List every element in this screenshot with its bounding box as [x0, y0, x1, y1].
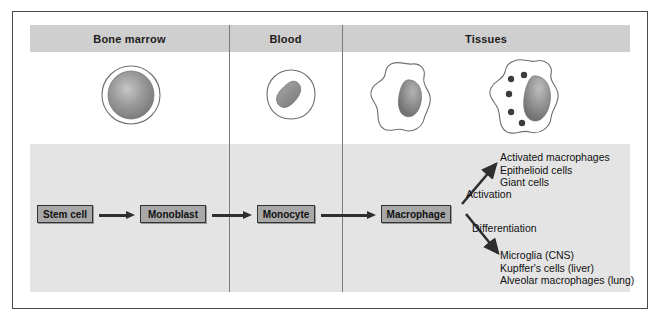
- granule-icon: [508, 76, 514, 82]
- activation-outcome-list: Activated macrophages Epithelioid cells …: [500, 151, 610, 189]
- arrow-head-icon: [243, 211, 252, 219]
- monocyte-illustration: [262, 66, 320, 124]
- column-header-bone-marrow: Bone marrow: [30, 25, 229, 52]
- stem-cell-illustration: [100, 62, 162, 128]
- outcome-item: Giant cells: [500, 176, 610, 189]
- flow-stage-macrophage-label: Macrophage: [387, 209, 446, 220]
- column-header-band: Bone marrow Blood Tissues: [30, 25, 630, 52]
- column-header-blood-label: Blood: [269, 33, 301, 45]
- arrow-monoblast-to-monocyte: [212, 211, 252, 220]
- column-header-blood: Blood: [229, 25, 342, 52]
- macrophage-illustration: [366, 58, 442, 138]
- column-header-tissues: Tissues: [342, 25, 630, 52]
- flow-stage-monoblast[interactable]: Monoblast: [140, 205, 206, 223]
- outcome-item: Alveolar macrophages (lung): [500, 274, 634, 287]
- flow-stage-macrophage[interactable]: Macrophage: [381, 205, 451, 223]
- column-divider-blood-tissues: [342, 25, 343, 292]
- flow-stage-stem-cell-label: Stem cell: [43, 209, 87, 220]
- arrow-stem-cell-to-monoblast: [99, 211, 135, 220]
- granule-icon: [521, 72, 527, 78]
- outcome-item: Microglia (CNS): [500, 249, 634, 262]
- arrow-head-icon: [126, 211, 135, 219]
- differentiation-outcome-list: Microglia (CNS) Kupffer's cells (liver) …: [500, 249, 634, 287]
- arrow-head-icon: [367, 211, 376, 219]
- arrow-shaft: [212, 214, 243, 217]
- granule-icon: [508, 109, 514, 115]
- granule-icon: [519, 120, 525, 126]
- branch-label-activation: Activation: [466, 188, 512, 200]
- flow-stage-monocyte-label: Monocyte: [263, 209, 310, 220]
- outcome-item: Kupffer's cells (liver): [500, 262, 634, 275]
- outcome-item: Activated macrophages: [500, 151, 610, 164]
- arrow-monocyte-to-macrophage: [321, 211, 376, 220]
- flow-stage-stem-cell[interactable]: Stem cell: [37, 205, 93, 223]
- column-header-bone-marrow-label: Bone marrow: [93, 33, 166, 45]
- arrow-shaft: [99, 214, 126, 217]
- column-header-tissues-label: Tissues: [465, 33, 507, 45]
- granule-icon: [506, 91, 512, 97]
- activated-macrophage-illustration: [484, 56, 570, 142]
- outcome-item: Epithelioid cells: [500, 164, 610, 177]
- flow-stage-monocyte[interactable]: Monocyte: [257, 205, 315, 223]
- flow-stage-monoblast-label: Monoblast: [148, 209, 198, 220]
- arrow-shaft: [321, 214, 367, 217]
- column-divider-bone-marrow-blood: [229, 25, 230, 292]
- figure-canvas: Bone marrow Blood Tissues: [0, 0, 660, 321]
- branch-label-differentiation: Differentiation: [472, 222, 537, 234]
